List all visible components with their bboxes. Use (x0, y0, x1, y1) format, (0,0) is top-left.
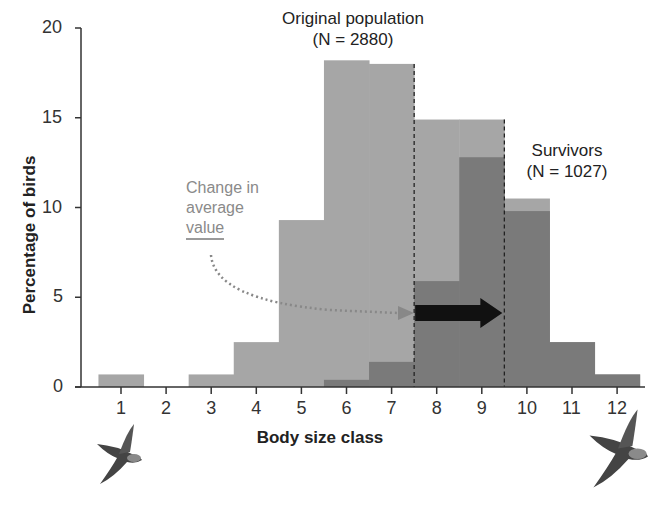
original-bar (324, 60, 370, 387)
survivors-n: (N = 1027) (512, 161, 622, 182)
x-tick-label: 8 (432, 398, 442, 419)
x-tick-label: 4 (251, 398, 261, 419)
survivor-bar (369, 362, 415, 387)
original-bar (189, 374, 235, 387)
y-tick-label: 20 (42, 17, 62, 38)
x-tick-label: 7 (387, 398, 397, 419)
x-tick-label: 5 (296, 398, 306, 419)
survivor-bar (595, 374, 641, 387)
survivors-label: Survivors (N = 1027) (512, 140, 622, 182)
change-line-3: value (186, 218, 224, 240)
large-bird-icon (590, 410, 649, 488)
y-axis-label: Percentage of birds (20, 135, 40, 335)
x-tick-label: 1 (116, 398, 126, 419)
original-population-n: (N = 2880) (268, 29, 438, 50)
original-bar (234, 342, 280, 387)
small-bird-icon (97, 424, 142, 484)
x-tick-label: 2 (161, 398, 171, 419)
x-tick-label: 12 (607, 398, 627, 419)
y-tick-label: 10 (42, 197, 62, 218)
original-bar (98, 374, 144, 387)
survivors-title: Survivors (512, 140, 622, 161)
survivor-bar (414, 281, 460, 387)
y-tick-label: 0 (53, 376, 63, 397)
x-tick-label: 11 (562, 398, 581, 419)
x-tick-label: 9 (477, 398, 487, 419)
survivor-bar (324, 380, 370, 387)
original-population-label: Original population (N = 2880) (268, 8, 438, 50)
change-line-2: average (186, 198, 259, 218)
survivor-bar (549, 342, 595, 387)
x-axis-label: Body size class (220, 428, 420, 448)
x-tick-label: 10 (517, 398, 537, 419)
survivor-bar (504, 211, 550, 387)
y-tick-label: 15 (42, 107, 62, 128)
original-bar (369, 64, 415, 387)
x-tick-label: 3 (206, 398, 216, 419)
original-population-title: Original population (268, 8, 438, 29)
change-in-average-label: Change in average value (186, 178, 259, 240)
y-tick-label: 5 (53, 286, 63, 307)
survivor-bar (459, 157, 505, 387)
x-tick-label: 6 (342, 398, 352, 419)
change-line-1: Change in (186, 178, 259, 198)
